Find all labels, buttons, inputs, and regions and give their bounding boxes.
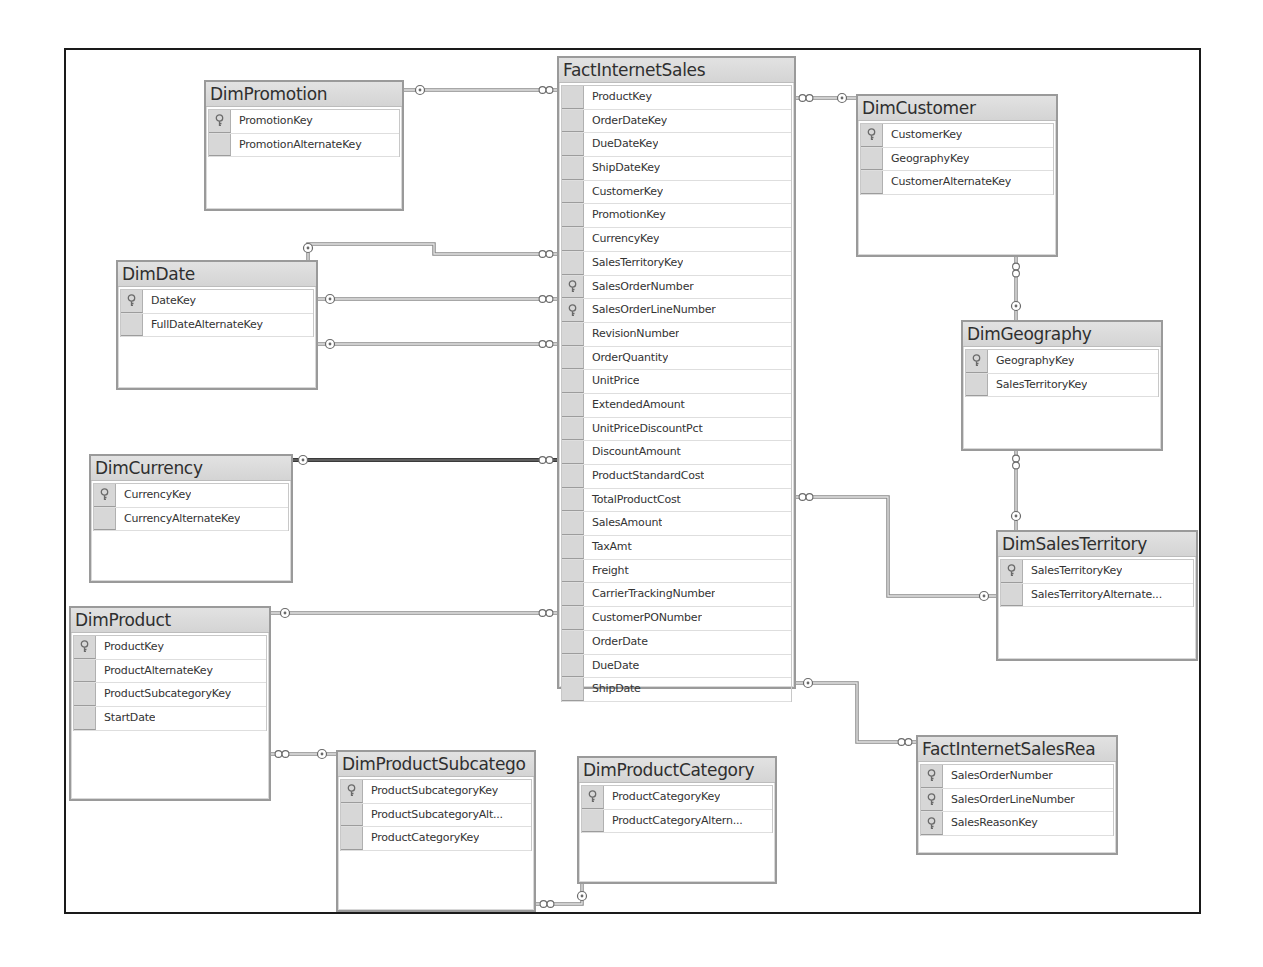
- primary-key-icon[interactable]: [921, 789, 943, 812]
- column-selector[interactable]: [562, 512, 584, 535]
- table-dimproduct[interactable]: DimProduct ProductKeyProductAlternateKey…: [69, 606, 271, 801]
- column-selector[interactable]: [562, 678, 584, 701]
- table-title[interactable]: FactInternetSales: [559, 58, 794, 83]
- primary-key-icon[interactable]: [582, 786, 604, 809]
- column-selector[interactable]: [562, 489, 584, 512]
- table-factinternetsales[interactable]: FactInternetSales ProductKeyOrderDateKey…: [557, 56, 796, 689]
- column-row[interactable]: SalesTerritoryKey: [562, 252, 791, 276]
- table-dimproductcategory[interactable]: DimProductCategory ProductCategoryKeyPro…: [577, 756, 777, 884]
- table-dimpromotion[interactable]: DimPromotion PromotionKeyPromotionAltern…: [204, 80, 404, 211]
- primary-key-icon[interactable]: [121, 290, 143, 313]
- column-row[interactable]: PromotionAlternateKey: [209, 134, 399, 158]
- column-row[interactable]: FullDateAlternateKey: [121, 314, 313, 338]
- column-row[interactable]: RevisionNumber: [562, 323, 791, 347]
- column-selector[interactable]: [562, 181, 584, 204]
- table-title[interactable]: DimCustomer: [858, 96, 1056, 121]
- table-title[interactable]: DimProductCategory: [579, 758, 775, 783]
- column-row[interactable]: DiscountAmount: [562, 441, 791, 465]
- column-row[interactable]: SalesOrderNumber: [921, 765, 1113, 789]
- column-selector[interactable]: [562, 157, 584, 180]
- column-selector[interactable]: [562, 607, 584, 630]
- column-row[interactable]: CustomerKey: [861, 124, 1053, 148]
- primary-key-icon[interactable]: [921, 812, 943, 835]
- table-factinternetsalesreason[interactable]: FactInternetSalesRea SalesOrderNumberSal…: [916, 735, 1118, 855]
- column-selector[interactable]: [562, 110, 584, 133]
- column-selector[interactable]: [121, 314, 143, 337]
- column-row[interactable]: UnitPrice: [562, 370, 791, 394]
- table-title[interactable]: DimSalesTerritory: [998, 532, 1196, 557]
- column-row[interactable]: ShipDateKey: [562, 157, 791, 181]
- primary-key-icon[interactable]: [74, 636, 96, 659]
- column-row[interactable]: ProductKey: [562, 86, 791, 110]
- column-selector[interactable]: [562, 631, 584, 654]
- column-row[interactable]: CurrencyKey: [94, 484, 288, 508]
- column-row[interactable]: TaxAmt: [562, 536, 791, 560]
- table-title[interactable]: DimCurrency: [91, 456, 291, 481]
- column-selector[interactable]: [562, 418, 584, 441]
- table-dimgeography[interactable]: DimGeography GeographyKeySalesTerritoryK…: [961, 320, 1163, 451]
- column-selector[interactable]: [1001, 584, 1023, 607]
- column-selector[interactable]: [562, 583, 584, 606]
- column-selector[interactable]: [562, 204, 584, 227]
- column-row[interactable]: ProductSubcategoryKey: [341, 780, 531, 804]
- column-row[interactable]: ProductKey: [74, 636, 266, 660]
- column-row[interactable]: PromotionKey: [209, 110, 399, 134]
- column-selector[interactable]: [562, 323, 584, 346]
- column-selector[interactable]: [209, 134, 231, 157]
- table-title[interactable]: DimProductSubcatego: [338, 752, 534, 777]
- table-title[interactable]: DimDate: [118, 262, 316, 287]
- column-selector[interactable]: [562, 133, 584, 156]
- table-dimcustomer[interactable]: DimCustomer CustomerKeyGeographyKeyCusto…: [856, 94, 1058, 257]
- column-row[interactable]: SalesAmount: [562, 512, 791, 536]
- primary-key-icon[interactable]: [341, 780, 363, 803]
- table-dimsalesterritory[interactable]: DimSalesTerritory SalesTerritoryKeySales…: [996, 530, 1198, 661]
- primary-key-icon[interactable]: [966, 350, 988, 373]
- table-title[interactable]: FactInternetSalesRea: [918, 737, 1116, 762]
- column-row[interactable]: ProductStandardCost: [562, 465, 791, 489]
- column-selector[interactable]: [562, 441, 584, 464]
- column-row[interactable]: ProductCategoryKey: [341, 827, 531, 851]
- column-row[interactable]: CustomerKey: [562, 181, 791, 205]
- column-row[interactable]: CarrierTrackingNumber: [562, 583, 791, 607]
- column-selector[interactable]: [562, 370, 584, 393]
- column-selector[interactable]: [562, 655, 584, 678]
- primary-key-icon[interactable]: [94, 484, 116, 507]
- column-row[interactable]: CurrencyAlternateKey: [94, 508, 288, 532]
- column-row[interactable]: ProductSubcategoryKey: [74, 683, 266, 707]
- column-selector[interactable]: [74, 707, 96, 730]
- column-row[interactable]: GeographyKey: [861, 148, 1053, 172]
- column-selector[interactable]: [74, 683, 96, 706]
- column-selector[interactable]: [861, 171, 883, 194]
- primary-key-icon[interactable]: [562, 276, 584, 299]
- column-row[interactable]: SalesTerritoryKey: [1001, 560, 1193, 584]
- column-row[interactable]: PromotionKey: [562, 204, 791, 228]
- column-row[interactable]: TotalProductCost: [562, 489, 791, 513]
- primary-key-icon[interactable]: [562, 299, 584, 322]
- primary-key-icon[interactable]: [861, 124, 883, 147]
- column-row[interactable]: OrderQuantity: [562, 347, 791, 371]
- column-row[interactable]: StartDate: [74, 707, 266, 731]
- column-selector[interactable]: [562, 394, 584, 417]
- primary-key-icon[interactable]: [209, 110, 231, 133]
- column-selector[interactable]: [562, 465, 584, 488]
- column-row[interactable]: SalesOrderNumber: [562, 276, 791, 300]
- column-row[interactable]: ProductSubcategoryAlt...: [341, 804, 531, 828]
- table-title[interactable]: DimPromotion: [206, 82, 402, 107]
- column-row[interactable]: ExtendedAmount: [562, 394, 791, 418]
- column-row[interactable]: ShipDate: [562, 678, 791, 702]
- column-selector[interactable]: [562, 252, 584, 275]
- column-selector[interactable]: [74, 660, 96, 683]
- column-row[interactable]: ProductCategoryAltern...: [582, 810, 772, 834]
- column-row[interactable]: Freight: [562, 560, 791, 584]
- column-row[interactable]: SalesReasonKey: [921, 812, 1113, 836]
- column-selector[interactable]: [562, 536, 584, 559]
- column-row[interactable]: DueDateKey: [562, 133, 791, 157]
- column-selector[interactable]: [562, 86, 584, 109]
- column-row[interactable]: OrderDate: [562, 631, 791, 655]
- column-selector[interactable]: [582, 810, 604, 833]
- column-selector[interactable]: [562, 560, 584, 583]
- column-row[interactable]: CustomerPONumber: [562, 607, 791, 631]
- table-title[interactable]: DimGeography: [963, 322, 1161, 347]
- primary-key-icon[interactable]: [1001, 560, 1023, 583]
- column-row[interactable]: CustomerAlternateKey: [861, 171, 1053, 195]
